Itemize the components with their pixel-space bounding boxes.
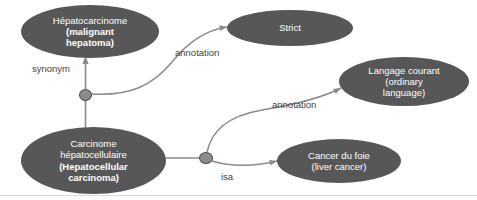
- node-strict[interactable]: Strict: [227, 10, 353, 46]
- node-line: (Hepatocellular: [27, 161, 160, 172]
- node-hepatocarcinome-label: Hépatocarcinome (malignant hepatoma): [21, 15, 159, 49]
- node-line: (malignant: [27, 26, 153, 37]
- edge-label-synonym: synonym: [32, 63, 70, 74]
- node-carcinome-hepatocellulaire[interactable]: Carcinome hépatocellulaire (Hepatocellul…: [21, 127, 166, 194]
- edge-label-annotation-strict: annotation: [175, 47, 219, 58]
- node-carcinome-hepatocellulaire-label: Carcinome hépatocellulaire (Hepatocellul…: [21, 138, 166, 183]
- node-langage-courant-label: Langage courant (ordinary language): [339, 65, 469, 99]
- node-line: Carcinome: [27, 138, 160, 149]
- node-line: Hépatocarcinome: [27, 15, 153, 26]
- node-cancer-du-foie-label: Cancer du foie (liver cancer): [277, 150, 401, 172]
- edge-label-annotation-langage: annotation: [272, 99, 316, 110]
- node-hepatocarcinome[interactable]: Hépatocarcinome (malignant hepatoma): [21, 5, 159, 58]
- node-line: carcinoma): [27, 172, 160, 183]
- diagram-canvas: Hépatocarcinome (malignant hepatoma) Str…: [0, 0, 477, 200]
- node-line: language): [345, 87, 463, 98]
- relation-junction-isa[interactable]: [199, 152, 213, 164]
- node-line: hépatocellulaire: [27, 149, 160, 160]
- node-line: Cancer du foie: [283, 150, 395, 161]
- bottom-divider: [0, 195, 477, 196]
- edge-label-isa: isa: [221, 171, 233, 182]
- relation-junction-synonym[interactable]: [79, 89, 92, 101]
- node-line: (ordinary: [345, 76, 463, 87]
- node-line: (liver cancer): [283, 161, 395, 172]
- node-line: hepatoma): [27, 37, 153, 48]
- node-line: Strict: [233, 22, 347, 33]
- node-langage-courant[interactable]: Langage courant (ordinary language): [339, 57, 469, 106]
- node-strict-label: Strict: [227, 22, 353, 33]
- edge-isa: [212, 161, 277, 166]
- node-cancer-du-foie[interactable]: Cancer du foie (liver cancer): [277, 139, 401, 183]
- node-line: Langage courant: [345, 65, 463, 76]
